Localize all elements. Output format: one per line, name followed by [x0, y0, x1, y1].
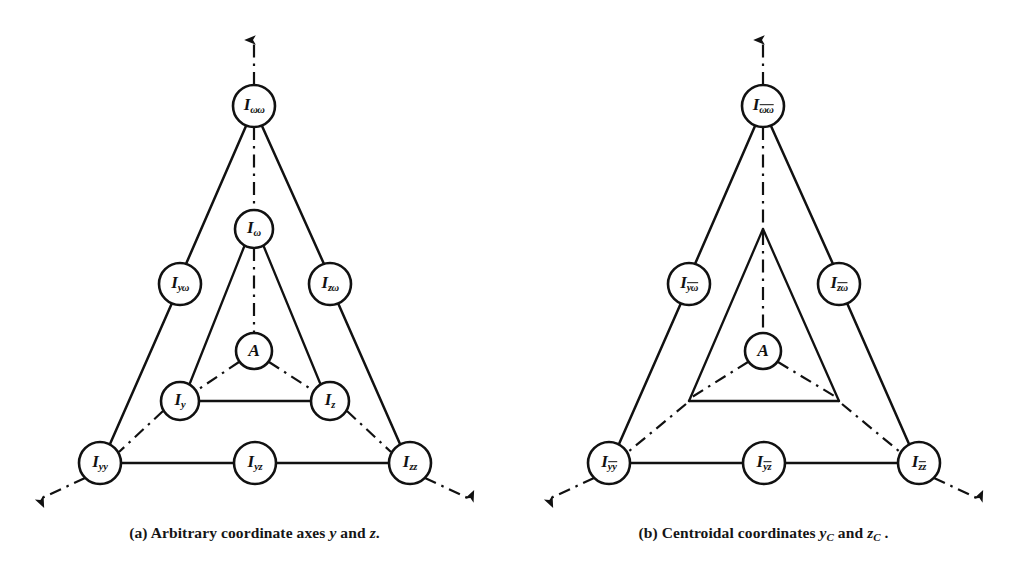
node-inner-right-a [311, 382, 349, 420]
panel-a-drawing [0, 0, 509, 566]
node-right-mid-a [309, 263, 351, 305]
node-bottom-left-b [588, 442, 630, 484]
axis-arrow-left-b [549, 478, 594, 499]
edge-apex-leftmid-a [186, 126, 246, 264]
caption-a: (a) Arbitrary coordinate axes y and z. [0, 524, 509, 542]
edge-leftmid-bottomleft-a [110, 303, 172, 444]
axis-center-to-innerleft-b [692, 362, 748, 397]
node-apex-a [233, 85, 275, 127]
node-left-mid-a [159, 263, 201, 305]
axis-innerleft-to-bl-b [628, 404, 686, 452]
panel-b-drawing [509, 0, 1018, 566]
edge-rightmid-bottomright-a [338, 303, 400, 444]
caption-b: (b) Centroidal coordinates yC and zC . [509, 524, 1018, 543]
axis-innerright-to-br-b [842, 404, 900, 452]
node-center-b [745, 333, 781, 369]
node-bottom-mid-a [234, 442, 276, 484]
axis-arrow-right-a [425, 478, 470, 499]
edge-apex-leftmid-b [695, 126, 755, 264]
edge-apex-rightmid-b [771, 126, 833, 264]
axis-innerright-to-br-a [347, 411, 391, 452]
axis-center-to-innerright-b [778, 362, 836, 397]
node-bottom-right-a [389, 442, 431, 484]
node-left-mid-b [668, 263, 710, 305]
node-center-a [236, 333, 272, 369]
panel-b: Iωω Iyω Izω Iyy Iyz Izz A (b) Centroidal… [509, 0, 1018, 566]
node-bottom-mid-b [743, 442, 785, 484]
edge-rightmid-bottomright-b [847, 303, 909, 444]
node-right-mid-b [818, 263, 860, 305]
edge-innerapex-innerleft-a [190, 247, 244, 383]
figure-container: Iωω Iyω Izω Iyy Iyz Izz Iω Iy Iz A (a) [0, 0, 1018, 566]
edge-innerapex-innerright-a [264, 247, 320, 383]
panel-a: Iωω Iyω Izω Iyy Iyz Izz Iω Iy Iz A (a) [0, 0, 509, 566]
edge-apex-rightmid-a [262, 126, 324, 264]
node-inner-apex-a [235, 210, 273, 248]
axis-center-to-innerleft-a [196, 362, 239, 391]
axis-innerleft-to-bl-a [119, 411, 163, 452]
axis-arrow-right-b [934, 478, 979, 499]
edge-leftmid-bottomleft-b [619, 303, 681, 444]
axis-arrow-left-a [40, 478, 85, 499]
node-apex-b [742, 85, 784, 127]
axis-center-to-innerright-a [269, 362, 314, 391]
node-bottom-left-a [79, 442, 121, 484]
node-inner-left-a [161, 382, 199, 420]
nodes-b [588, 85, 940, 484]
node-bottom-right-b [898, 442, 940, 484]
